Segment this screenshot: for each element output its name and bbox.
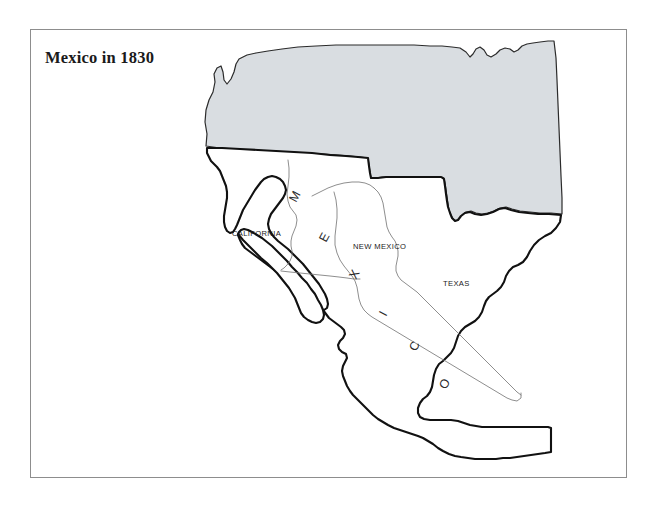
map-graphic: CALIFORNIA NEW MEXICO TEXAS M E X I C O	[0, 0, 655, 509]
country-letter-o: O	[436, 376, 453, 391]
region-label-new-mexico: NEW MEXICO	[353, 242, 406, 251]
region-label-california: CALIFORNIA	[232, 229, 282, 238]
region-label-texas: TEXAS	[443, 279, 470, 288]
map-figure: Mexico in 1830 CALIFORNIA NEW MEXICO TEX…	[0, 0, 655, 509]
